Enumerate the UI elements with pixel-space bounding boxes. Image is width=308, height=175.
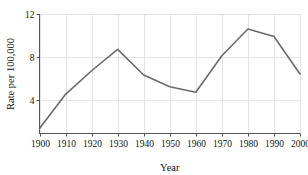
- x-tick-label: 1930: [109, 139, 128, 149]
- x-tick-label: 1990: [265, 139, 284, 149]
- x-tick-label: 1900: [31, 139, 50, 149]
- x-tick-label: 1960: [187, 139, 206, 149]
- line-chart: 4812 19001910192019301940195019601970198…: [0, 0, 308, 175]
- chart-background: [0, 0, 308, 175]
- x-axis-title: Year: [160, 162, 180, 173]
- x-tick-label: 1970: [213, 139, 232, 149]
- x-tick-label: 1940: [135, 139, 154, 149]
- x-axis-tick-labels: 1900191019201930194019501960197019801990…: [31, 139, 308, 149]
- x-tick-label: 1980: [239, 139, 258, 149]
- x-tick-label: 1950: [161, 139, 180, 149]
- figure-container: 4812 19001910192019301940195019601970198…: [0, 0, 308, 175]
- x-tick-label: 1910: [57, 139, 76, 149]
- y-tick-label: 8: [30, 53, 35, 63]
- y-axis-title: Rate per 100,000: [5, 38, 16, 110]
- y-tick-label: 12: [25, 10, 35, 20]
- x-tick-label: 1920: [83, 139, 102, 149]
- x-tick-label: 2000: [291, 139, 308, 149]
- y-tick-label: 4: [30, 96, 35, 106]
